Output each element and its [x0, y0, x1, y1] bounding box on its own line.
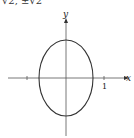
- y-axis: [64, 18, 68, 136]
- graph: x y 1: [0, 0, 134, 138]
- x-axis-label: x: [126, 73, 131, 83]
- x-axis: [8, 76, 129, 80]
- y-axis-label: y: [62, 9, 69, 19]
- tick-label-one: 1: [102, 82, 107, 91]
